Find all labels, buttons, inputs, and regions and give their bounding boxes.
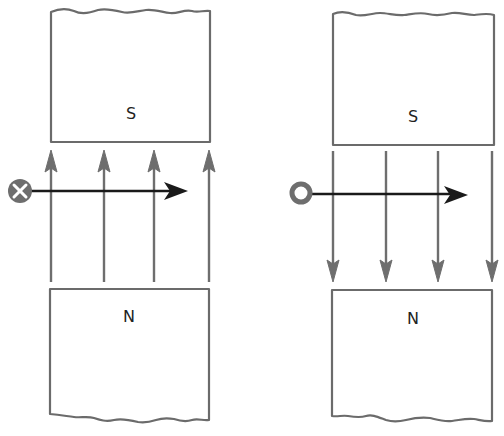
field-line-down-arrow — [486, 151, 498, 282]
field-line-up-arrow — [203, 150, 215, 282]
left-bottom-magnet: N — [50, 289, 209, 422]
field-line-up-arrow — [98, 150, 110, 282]
right-bottom-magnet: N — [332, 290, 492, 422]
field-line-up-arrow — [148, 150, 160, 282]
field-line-down-arrow — [380, 151, 392, 282]
field-line-up-arrow — [45, 150, 57, 282]
left-field-lines — [45, 150, 215, 282]
right-field-lines — [327, 151, 498, 282]
right-top-magnet: S — [333, 12, 494, 145]
pole-label-s: S — [408, 107, 418, 126]
field-line-down-arrow — [327, 151, 339, 282]
pole-label-s: S — [126, 104, 136, 123]
pole-label-n: N — [407, 309, 419, 328]
conductor-out-of-page-icon — [292, 184, 310, 202]
left-top-magnet: S — [51, 9, 210, 142]
left-panel: S — [8, 9, 215, 422]
pole-label-n: N — [123, 307, 135, 326]
conductor-into-page-icon — [8, 179, 32, 203]
right-panel: S — [292, 12, 498, 421]
magnetic-field-diagram: S — [0, 0, 504, 436]
force-arrow-right — [30, 182, 188, 200]
field-line-down-arrow — [432, 151, 444, 282]
